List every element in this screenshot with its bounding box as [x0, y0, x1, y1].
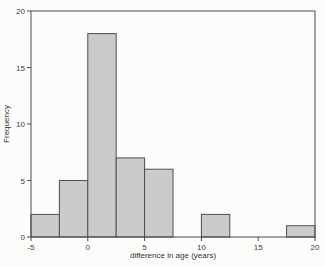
x-tick-label: 20: [311, 243, 320, 252]
x-axis-label: difference in age (years): [130, 251, 216, 260]
x-tick-label: 0: [86, 243, 91, 252]
x-tick-label: -5: [27, 243, 35, 252]
y-tick-label: 15: [16, 64, 25, 73]
y-axis-ticks: 05101520: [16, 7, 31, 242]
y-tick-label: 20: [16, 7, 25, 16]
y-tick-label: 5: [21, 177, 26, 186]
x-axis-ticks: -505101520: [27, 237, 320, 252]
y-tick-label: 10: [16, 120, 25, 129]
histogram-figure: -505101520 05101520 difference in age (y…: [0, 0, 325, 266]
histogram-bar: [287, 226, 315, 237]
histogram-bar: [116, 158, 144, 237]
histogram-bar: [145, 169, 173, 237]
histogram-chart: -505101520 05101520 difference in age (y…: [0, 0, 325, 266]
x-tick-label: 15: [254, 243, 263, 252]
y-tick-label: 0: [21, 233, 26, 242]
bars-group: [31, 34, 315, 237]
histogram-bar: [201, 214, 229, 237]
histogram-bar: [59, 181, 87, 238]
y-axis-label: Frequency: [2, 105, 11, 143]
histogram-bar: [88, 34, 116, 237]
histogram-bar: [31, 214, 59, 237]
